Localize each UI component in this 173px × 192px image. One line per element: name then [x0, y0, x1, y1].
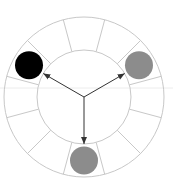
segment-divider	[63, 20, 72, 52]
segment-divider	[129, 109, 161, 118]
segment-divider	[7, 109, 39, 118]
arrow	[84, 74, 125, 98]
gray-node-right	[125, 51, 153, 79]
ring-diagram	[0, 0, 173, 192]
segment-divider	[117, 130, 140, 153]
segment-divider	[27, 130, 50, 153]
arrow	[43, 74, 84, 98]
black-node	[15, 51, 43, 79]
gray-node-bottom	[70, 147, 98, 175]
arrows	[43, 74, 124, 145]
segment-divider	[96, 20, 105, 52]
